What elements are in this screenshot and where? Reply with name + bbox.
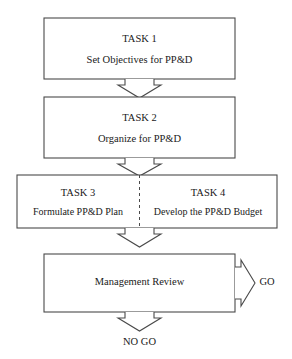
task1-subtitle: Set Objectives for PP&D: [87, 54, 193, 65]
arrow-task34-review: [118, 228, 161, 247]
right-arrow-icon: [235, 260, 255, 306]
down-arrow-icon: [118, 79, 161, 98]
flowchart-diagram: TASK 1 Set Objectives for PP&D TASK 2 Or…: [0, 0, 292, 359]
task4-title: TASK 4: [191, 187, 226, 198]
task2-title: TASK 2: [122, 112, 156, 123]
task2-subtitle: Organize for PP&D: [98, 133, 182, 144]
no-go-label: NO GO: [123, 336, 156, 347]
node-task3-task4: TASK 3 Formulate PP&D Plan TASK 4 Develo…: [17, 175, 277, 228]
task4-subtitle: Develop the PP&D Budget: [154, 206, 263, 217]
task34-box: [17, 175, 277, 228]
arrow-task2-task34: [118, 158, 161, 176]
task3-title: TASK 3: [61, 187, 95, 198]
node-task2: TASK 2 Organize for PP&D: [44, 97, 235, 158]
task1-box: [44, 18, 235, 79]
go-label: GO: [259, 276, 275, 287]
task3-subtitle: Formulate PP&D Plan: [33, 206, 123, 217]
arrow-task1-task2: [118, 79, 161, 98]
flowchart-canvas: TASK 1 Set Objectives for PP&D TASK 2 Or…: [0, 0, 292, 359]
task1-title: TASK 1: [122, 33, 156, 44]
down-arrow-icon: [118, 158, 161, 176]
arrow-review-nogo: NO GO: [118, 312, 161, 347]
task2-box: [44, 97, 235, 158]
review-title: Management Review: [95, 276, 185, 287]
down-arrow-icon: [118, 228, 161, 247]
arrow-review-go: GO: [235, 260, 275, 306]
node-management-review: Management Review: [44, 254, 235, 312]
node-task1: TASK 1 Set Objectives for PP&D: [44, 18, 235, 79]
down-arrow-icon: [118, 312, 161, 331]
